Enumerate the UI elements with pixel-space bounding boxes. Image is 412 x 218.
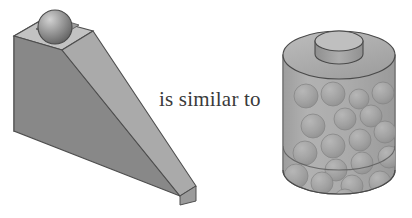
- caption-is-similar-to: is similar to: [159, 86, 261, 112]
- piston-top: [315, 31, 363, 51]
- wedge-ball: [38, 10, 72, 44]
- gas-cylinder-group: [283, 31, 400, 211]
- figure-canvas: is similar to: [0, 0, 412, 218]
